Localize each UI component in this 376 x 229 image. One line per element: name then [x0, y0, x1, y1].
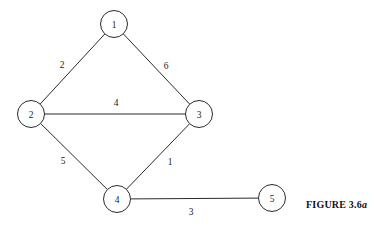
graph-node-1: 1	[101, 11, 128, 38]
nodes-group: 12345	[18, 11, 286, 213]
edge-weight-2-3: 4	[114, 98, 119, 108]
edge-weight-2-4: 5	[61, 156, 66, 166]
edge-weight-1-2: 2	[60, 60, 65, 70]
node-label-2: 2	[29, 110, 34, 120]
edge-weight-4-5: 3	[189, 207, 194, 217]
node-label-1: 1	[112, 20, 117, 30]
graph-diagram: 12345 264513	[0, 0, 376, 229]
graph-node-3: 3	[186, 101, 213, 128]
graph-node-4: 4	[104, 186, 131, 213]
figure-caption-suffix: a	[362, 199, 367, 210]
node-label-4: 4	[115, 195, 120, 205]
graph-node-2: 2	[18, 101, 45, 128]
node-label-5: 5	[270, 194, 275, 204]
node-label-3: 3	[197, 110, 202, 120]
edge-1-2	[40, 34, 105, 104]
figure-caption-main: FIGURE 3.6	[306, 199, 362, 210]
figure-container: 12345 264513 FIGURE 3.6a	[0, 0, 376, 229]
edge-3-4	[126, 124, 189, 190]
edge-weight-1-3: 6	[164, 61, 169, 71]
figure-caption: FIGURE 3.6a	[306, 199, 367, 210]
edge-1-3	[123, 34, 189, 104]
edge-4-5	[131, 198, 259, 199]
graph-node-5: 5	[259, 185, 286, 212]
edge-2-4	[41, 123, 108, 189]
edges-group	[40, 34, 258, 199]
edge-weight-3-4: 1	[168, 157, 173, 167]
